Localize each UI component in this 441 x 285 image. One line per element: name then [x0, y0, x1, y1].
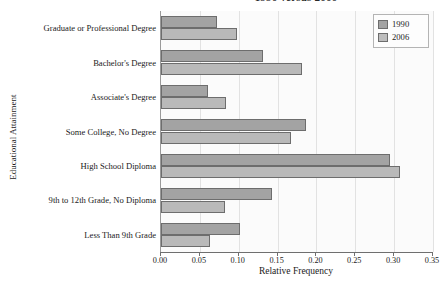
legend-item-2006: 2006	[378, 31, 424, 44]
legend-label-2006: 2006	[392, 33, 409, 42]
category-label-list: Graduate or Professional DegreeBachelor'…	[0, 11, 160, 252]
legend-item-1990: 1990	[378, 18, 424, 31]
x-axis-line	[160, 252, 432, 253]
bar-2006-6	[161, 235, 210, 247]
category-label-2: Associate's Degree	[8, 92, 160, 102]
bar-1990-1	[161, 50, 263, 62]
bar-2006-3	[161, 132, 291, 144]
bar-2006-1	[161, 63, 302, 75]
bar-2006-2	[161, 97, 226, 109]
x-axis-tick-label: 0.10	[218, 256, 258, 265]
x-axis-tick-label: 0.30	[373, 256, 413, 265]
x-axis-tick-label: 0.05	[179, 256, 219, 265]
legend-label-1990: 1990	[392, 20, 409, 29]
bar-chart: 1990 versus 2006 Educational Attainment …	[0, 0, 441, 285]
gridline	[433, 11, 434, 252]
bar-2006-5	[161, 201, 225, 213]
legend-swatch-icon-1990	[378, 20, 388, 29]
category-label-1: Bachelor's Degree	[8, 58, 160, 68]
bar-1990-6	[161, 223, 240, 235]
gridline	[355, 11, 356, 252]
bar-1990-3	[161, 119, 306, 131]
x-axis-title: Relative Frequency	[160, 266, 432, 276]
chart-title: 1990 versus 2006	[160, 0, 432, 3]
x-axis-tick-label: 0.15	[257, 256, 297, 265]
category-label-3: Some College, No Degree	[8, 127, 160, 137]
bar-2006-0	[161, 28, 237, 40]
category-label-5: 9th to 12th Grade, No Diploma	[8, 195, 160, 205]
category-label-6: Less Than 9th Grade	[8, 230, 160, 240]
bar-1990-5	[161, 188, 272, 200]
gridline	[316, 11, 317, 252]
legend: 1990 2006	[373, 14, 429, 48]
category-label-4: High School Diploma	[8, 161, 160, 171]
x-axis-tick-label: 0.00	[140, 256, 180, 265]
x-axis-tick-label: 0.20	[295, 256, 335, 265]
bar-1990-0	[161, 16, 217, 28]
bar-1990-4	[161, 154, 390, 166]
x-axis-tick-label: 0.25	[334, 256, 374, 265]
category-label-0: Graduate or Professional Degree	[8, 23, 160, 33]
bar-2006-4	[161, 166, 400, 178]
x-axis-tick-label: 0.35	[412, 256, 441, 265]
legend-swatch-icon-2006	[378, 33, 388, 42]
bar-1990-2	[161, 85, 208, 97]
